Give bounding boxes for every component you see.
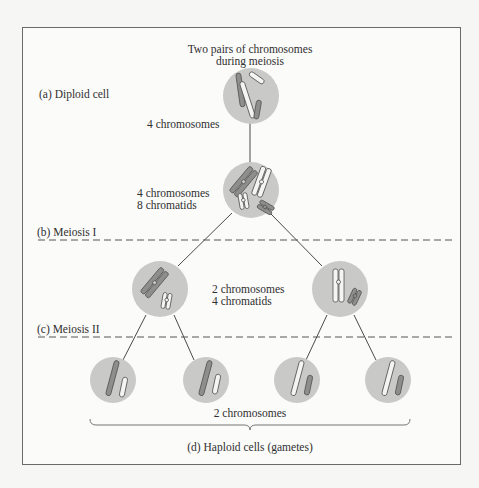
meiosis-i-cell: [223, 162, 279, 218]
stage-c-label: (c) Meiosis II: [37, 323, 100, 335]
haploid-cell-4: [365, 357, 411, 403]
diploid-cell: [223, 68, 279, 124]
figure-title: Two pairs of chromosomes during meiosis: [160, 43, 340, 67]
stage-c-count-line1: 2 chromosomes: [212, 283, 285, 295]
meiosis-ii-cell-right: [312, 261, 368, 317]
stage-b-count: 4 chromosomes 8 chromatids: [137, 187, 210, 211]
figure-title-line2: during meiosis: [160, 55, 340, 67]
haploid-brace: [90, 419, 410, 430]
stage-b-label: (b) Meiosis I: [37, 226, 96, 238]
stage-c-count-line2: 4 chromatids: [212, 295, 285, 307]
meiosis-ii-cell-left: [132, 261, 188, 317]
connector-lines: [123, 123, 376, 360]
stage-a-count: 4 chromosomes: [147, 118, 220, 130]
stage-a-label: (a) Diploid cell: [39, 88, 109, 100]
stage-b-count-line2: 8 chromatids: [137, 199, 210, 211]
haploid-cell-1: [90, 357, 136, 403]
stage-b-count-line1: 4 chromosomes: [137, 187, 210, 199]
stage-d-count: 2 chromosomes: [190, 407, 310, 419]
stage-d-label: (d) Haploid cells (gametes): [160, 441, 340, 453]
haploid-cell-3: [274, 357, 320, 403]
figure-title-line1: Two pairs of chromosomes: [160, 43, 340, 55]
stage-c-count: 2 chromosomes 4 chromatids: [212, 283, 285, 307]
haploid-cell-2: [183, 357, 229, 403]
